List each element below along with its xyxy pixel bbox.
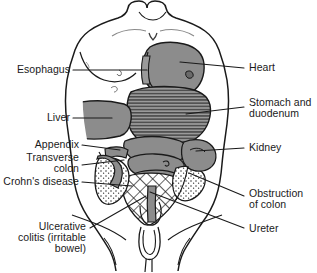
label-kidney: Kidney <box>249 142 281 153</box>
label-esophagus: Esophagus <box>0 64 70 75</box>
organ-kidney <box>182 140 216 172</box>
label-ureter: Ureter <box>249 223 278 234</box>
anatomy-diagram: Esophagus Liver Appendix Transverse colo… <box>0 0 317 273</box>
label-appendix: Appendix <box>0 139 79 150</box>
label-liver: Liver <box>0 112 70 123</box>
label-ulcerative-colitis-line3: bowel) <box>0 243 86 254</box>
label-crohns-disease: Crohn's disease <box>0 176 79 187</box>
label-obstruction-line2: of colon <box>249 199 286 210</box>
label-heart: Heart <box>249 62 275 73</box>
label-stomach-line2: duodenum <box>249 108 299 119</box>
label-transverse-colon-line2: colon <box>0 163 79 174</box>
